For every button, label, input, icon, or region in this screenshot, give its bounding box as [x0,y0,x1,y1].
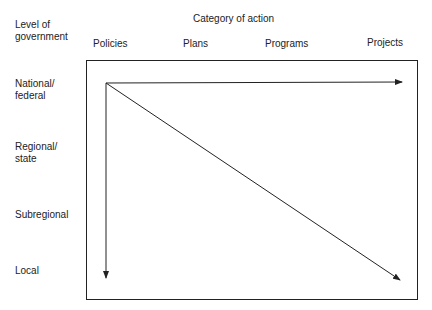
diagram-canvas [0,0,432,310]
diagram-frame [87,61,418,300]
arrow-horizontal [106,82,402,83]
arrow-diagonal [106,83,400,280]
